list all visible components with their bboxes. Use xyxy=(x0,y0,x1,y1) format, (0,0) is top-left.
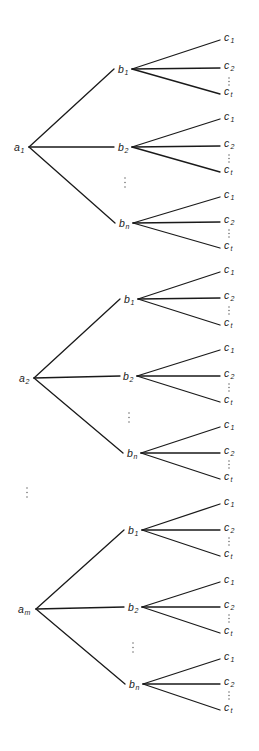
svg-text:2: 2 xyxy=(230,295,235,302)
leaf-ellipsis xyxy=(228,460,229,468)
svg-text:c: c xyxy=(224,598,230,610)
edge-b1-c1 xyxy=(132,40,220,69)
svg-text:2: 2 xyxy=(134,607,139,614)
svg-text:2: 2 xyxy=(124,147,129,154)
svg-text:b: b xyxy=(128,524,134,536)
branch-ellipsis xyxy=(132,642,133,652)
root-node-am: am xyxy=(18,603,31,617)
svg-text:c: c xyxy=(224,188,230,200)
svg-text:c: c xyxy=(224,137,230,149)
edge-bn-ct xyxy=(141,453,220,479)
leaf-node-c1: c1 xyxy=(224,418,235,432)
edge-am-bn xyxy=(36,609,125,684)
edge-am-b2 xyxy=(36,607,124,609)
svg-text:t: t xyxy=(231,245,234,252)
edge-a2-b1 xyxy=(34,299,120,378)
svg-text:1: 1 xyxy=(231,656,235,663)
svg-text:t: t xyxy=(231,707,234,714)
svg-text:n: n xyxy=(134,453,138,460)
leaf-node-c2: c2 xyxy=(224,367,235,381)
svg-text:2: 2 xyxy=(25,378,30,385)
leaf-ellipsis xyxy=(228,229,229,237)
leaf-node-ct: ct xyxy=(224,470,234,484)
edge-bn-ct xyxy=(133,223,220,248)
svg-text:1: 1 xyxy=(231,347,235,354)
node-am-b1: b1 xyxy=(128,524,139,538)
edge-b2-c2 xyxy=(132,146,220,147)
svg-text:a: a xyxy=(14,141,20,153)
edge-b2-c1 xyxy=(137,350,220,376)
svg-text:b: b xyxy=(118,141,124,153)
edge-a1-bn xyxy=(29,147,115,223)
node-a1-b2: b2 xyxy=(118,141,129,155)
svg-text:1: 1 xyxy=(231,424,235,431)
node-a2-b2: b2 xyxy=(123,370,134,384)
edge-b1-c1 xyxy=(138,272,220,299)
svg-text:t: t xyxy=(231,630,234,637)
edge-bn-c1 xyxy=(141,427,220,453)
svg-text:c: c xyxy=(224,263,230,275)
leaf-node-c1: c1 xyxy=(224,341,235,355)
node-am-bn: bn xyxy=(129,678,140,692)
svg-text:1: 1 xyxy=(231,579,235,586)
svg-text:b: b xyxy=(118,63,124,75)
svg-text:1: 1 xyxy=(231,501,235,508)
svg-text:t: t xyxy=(231,91,234,98)
leaf-node-c1: c1 xyxy=(224,188,235,202)
svg-text:m: m xyxy=(25,609,31,616)
svg-text:c: c xyxy=(224,573,230,585)
svg-text:c: c xyxy=(224,521,230,533)
leaf-node-ct: ct xyxy=(224,701,234,715)
edge-b1-ct xyxy=(138,299,220,325)
node-am-b2: b2 xyxy=(128,601,139,615)
svg-text:b: b xyxy=(129,678,135,690)
leaf-node-c1: c1 xyxy=(224,263,235,277)
svg-text:a: a xyxy=(18,603,24,615)
svg-text:2: 2 xyxy=(230,527,235,534)
svg-text:a: a xyxy=(19,372,25,384)
svg-text:1: 1 xyxy=(135,530,139,537)
svg-text:1: 1 xyxy=(131,299,135,306)
svg-text:c: c xyxy=(224,675,230,687)
edge-bn-ct xyxy=(143,684,220,710)
leaf-node-ct: ct xyxy=(224,85,234,99)
leaf-node-ct: ct xyxy=(224,547,234,561)
svg-text:c: c xyxy=(224,367,230,379)
leaf-ellipsis xyxy=(228,383,229,391)
node-a2-b1: b1 xyxy=(124,293,135,307)
leaf-node-ct: ct xyxy=(224,163,234,177)
leaf-node-c2: c2 xyxy=(224,598,235,612)
edge-b1-c2 xyxy=(138,298,220,299)
svg-text:c: c xyxy=(224,701,230,713)
edge-bn-c2 xyxy=(133,222,220,223)
svg-text:c: c xyxy=(224,624,230,636)
leaf-node-c1: c1 xyxy=(224,110,235,124)
leaf-node-ct: ct xyxy=(224,239,234,253)
svg-text:1: 1 xyxy=(231,37,235,44)
svg-text:b: b xyxy=(119,217,125,229)
leaf-node-c2: c2 xyxy=(224,444,235,458)
leaf-ellipsis xyxy=(228,306,229,314)
edge-b1-ct xyxy=(132,69,220,94)
svg-text:t: t xyxy=(231,322,234,329)
root-node-a1: a1 xyxy=(14,141,25,155)
edge-b1-c2 xyxy=(132,68,220,69)
svg-text:2: 2 xyxy=(230,373,235,380)
leaf-node-c2: c2 xyxy=(224,137,235,151)
svg-text:2: 2 xyxy=(230,219,235,226)
svg-text:c: c xyxy=(224,85,230,97)
tree-diagram: a1b1c1c2ctb2c1c2ctbnc1c2cta2b1c1c2ctb2c1… xyxy=(0,0,259,751)
svg-text:1: 1 xyxy=(231,116,235,123)
edge-a2-b2 xyxy=(34,376,120,378)
leaf-ellipsis xyxy=(228,691,229,699)
leaf-node-c1: c1 xyxy=(224,650,235,664)
leaf-node-c2: c2 xyxy=(224,289,235,303)
edge-b2-ct xyxy=(137,376,220,402)
svg-text:c: c xyxy=(224,547,230,559)
edge-a1-b1 xyxy=(29,69,114,147)
svg-text:b: b xyxy=(123,370,129,382)
svg-text:2: 2 xyxy=(230,143,235,150)
svg-text:2: 2 xyxy=(230,450,235,457)
leaf-node-ct: ct xyxy=(224,393,234,407)
edge-b1-ct xyxy=(142,530,220,556)
